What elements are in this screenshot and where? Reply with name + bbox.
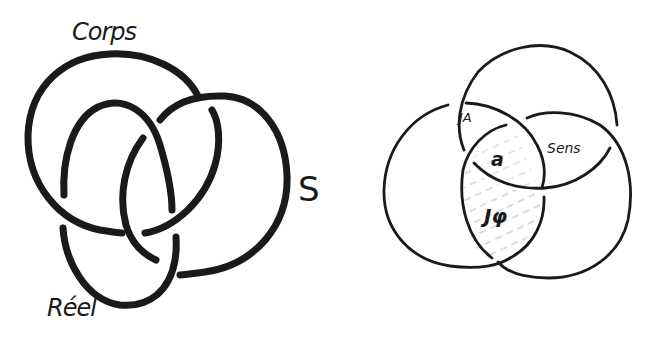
label-phallic-jouissance: Jφ (484, 206, 507, 226)
diagram-canvas: Corps S Réel JA a Sens Jφ (0, 0, 661, 346)
flat-knot-drawing (0, 0, 661, 346)
label-object-a: a (491, 150, 504, 169)
top-circle (459, 46, 617, 150)
label-reel: Réel (47, 296, 96, 320)
label-sens: Sens (547, 141, 581, 155)
label-jouissance-other: JA (459, 111, 472, 124)
label-symbolic: S (298, 172, 320, 206)
label-corps: Corps (72, 20, 136, 44)
